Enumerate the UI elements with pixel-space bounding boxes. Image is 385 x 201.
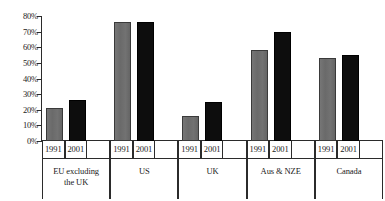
y-axis-tick-mark <box>37 32 42 33</box>
category-label-text: US <box>111 166 177 177</box>
bar-chart: 80%70%60%50%40%30%20%10%0% 1991200119912… <box>0 0 385 201</box>
bar-2001 <box>69 100 86 141</box>
y-axis-tick-mark <box>37 16 42 17</box>
y-axis-tick-mark <box>37 94 42 95</box>
bar-group <box>315 16 383 141</box>
bar-1991 <box>182 116 199 141</box>
y-axis-tick-label: 70% <box>23 27 38 36</box>
bar-2001 <box>205 102 222 141</box>
y-axis-tick-label: 30% <box>23 90 38 99</box>
y-axis-tick-label: 40% <box>23 74 38 83</box>
y-axis-tick-mark <box>37 63 42 64</box>
y-axis-tick-label: 10% <box>23 121 38 130</box>
bar-1991 <box>46 108 63 141</box>
category-label-row: EU excludingthe UKUSUKAus & NZECanada <box>42 159 383 199</box>
year-cell-2001: 2001 <box>133 141 156 159</box>
y-axis-tick-mark <box>37 110 42 111</box>
y-axis-tick-mark <box>37 141 42 142</box>
category-label-text: Canada <box>316 166 382 177</box>
year-cell-2001: 2001 <box>65 141 88 159</box>
year-cell-spacer <box>87 141 110 159</box>
bar-1991 <box>114 22 131 141</box>
year-cell-spacer <box>223 141 246 159</box>
bar-2001 <box>274 32 291 141</box>
year-cell-2001: 2001 <box>337 141 360 159</box>
year-cell-1991: 1991 <box>42 141 65 159</box>
y-axis-tick-label: 20% <box>23 106 38 115</box>
y-axis-tick-label: 80% <box>23 12 38 21</box>
y-axis-tick-label: 50% <box>23 59 38 68</box>
category-label: EU excludingthe UK <box>42 159 110 199</box>
year-cell-1991: 1991 <box>178 141 201 159</box>
plot-area <box>42 16 382 141</box>
bar-group <box>247 16 315 141</box>
bar-2001 <box>137 22 154 141</box>
year-cell-2001: 2001 <box>201 141 224 159</box>
y-axis-tick-label: 60% <box>23 43 38 52</box>
bar-1991 <box>319 58 336 141</box>
bar-group <box>42 16 110 141</box>
year-cell-1991: 1991 <box>315 141 338 159</box>
year-cell-2001: 2001 <box>269 141 292 159</box>
y-axis-tick-labels: 80%70%60%50%40%30%20%10%0% <box>10 12 38 140</box>
year-cell-spacer <box>360 141 383 159</box>
category-label: UK <box>178 159 246 199</box>
year-cell-spacer <box>292 141 315 159</box>
year-cell-1991: 1991 <box>110 141 133 159</box>
bar-2001 <box>342 55 359 141</box>
y-axis-tick-mark <box>37 125 42 126</box>
category-label: Aus & NZE <box>247 159 315 199</box>
category-label: US <box>110 159 178 199</box>
bar-group <box>178 16 246 141</box>
year-cell-1991: 1991 <box>247 141 270 159</box>
y-axis-tick-mark <box>37 79 42 80</box>
category-label-text: Aus & NZE <box>248 166 314 177</box>
year-cell-spacer <box>155 141 178 159</box>
year-label-row: 1991200119912001199120011991200119912001 <box>42 141 383 159</box>
category-label: Canada <box>315 159 383 199</box>
y-axis-tick-mark <box>37 47 42 48</box>
category-label-text: EU excludingthe UK <box>43 166 109 187</box>
bar-group <box>110 16 178 141</box>
category-label-text: UK <box>179 166 245 177</box>
bar-1991 <box>251 50 268 141</box>
